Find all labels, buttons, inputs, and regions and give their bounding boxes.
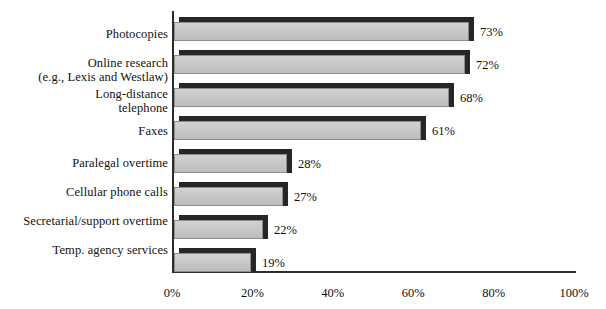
bar-value-label: 28% [298,158,321,171]
category-label-paralegal-overtime: Paralegal overtime [72,157,168,171]
category-label-temp-agency-services: Temp. agency services [53,244,168,258]
bar-front-face [174,154,287,173]
bar-value-label: 61% [432,125,455,138]
x-tick-label-100: 100% [559,287,588,300]
bar-side-face [465,55,470,74]
x-tick-label-20: 20% [241,287,264,300]
bar-side-face [251,253,256,272]
category-label-faxes: Faxes [138,125,168,139]
bar-front-face [174,187,283,206]
bar-value-label: 22% [274,224,297,237]
plot-area: 73% 72% 68% 61% 28% [172,11,576,273]
bar-front-face [174,121,421,140]
bar-front-face [174,88,449,107]
x-tick-label-60: 60% [402,287,425,300]
x-tick-label-0: 0% [164,287,181,300]
category-label-long-distance-telephone: Long-distance telephone [95,88,168,115]
bar-side-face [287,154,292,173]
bar-value-label: 72% [476,59,499,72]
bar-value-label: 19% [262,257,285,270]
bar-value-label: 73% [480,26,503,39]
bar-front-face [174,55,465,74]
bar-side-face [469,22,474,41]
category-label-secretarial-support-overtime: Secretarial/support overtime [23,215,168,229]
bar-side-face [449,88,454,107]
bar-front-face [174,22,469,41]
category-label-cellular-phone-calls: Cellular phone calls [66,186,168,200]
category-label-photocopies: Photocopies [106,28,168,42]
bar-value-label: 27% [294,191,317,204]
bar-chart: Photocopies Online research (e.g., Lexis… [0,0,606,309]
bar-front-face [174,220,263,239]
bar-side-face [421,121,426,140]
category-axis-labels: Photocopies Online research (e.g., Lexis… [0,0,168,309]
category-label-online-research: Online research (e.g., Lexis and Westlaw… [38,57,168,84]
bar-front-face [174,253,251,272]
bar-side-face [283,187,288,206]
bar-side-face [263,220,268,239]
bar-value-label: 68% [460,92,483,105]
x-tick-label-80: 80% [482,287,505,300]
x-tick-label-40: 40% [321,287,344,300]
